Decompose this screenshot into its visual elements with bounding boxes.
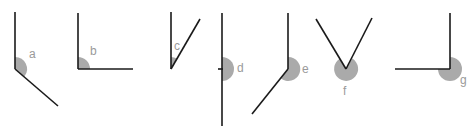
- angle-b-label: b: [90, 44, 97, 58]
- angle-f: f: [316, 18, 372, 98]
- angles-diagram: a b c d e f g: [0, 0, 475, 131]
- angle-f-sector: [334, 59, 358, 81]
- angle-f-arm-2: [346, 18, 372, 69]
- angle-a: a: [15, 12, 58, 106]
- angle-a-arm-2: [15, 69, 58, 106]
- angle-d-sector: [222, 57, 234, 81]
- angle-g-label: g: [460, 73, 467, 87]
- angle-d: d: [218, 13, 244, 126]
- angle-b-sector: [78, 57, 90, 69]
- angle-d-label: d: [237, 61, 244, 75]
- angle-e-label: e: [302, 62, 309, 76]
- angle-e-sector: [281, 57, 301, 81]
- angle-c-label: c: [174, 39, 180, 53]
- angle-a-label: a: [29, 47, 36, 61]
- angle-g: g: [395, 13, 467, 87]
- angle-e: e: [252, 13, 309, 114]
- angle-f-arm-1: [316, 19, 346, 69]
- angle-f-label: f: [343, 84, 347, 98]
- angle-c: c: [171, 12, 200, 69]
- angle-g-sector: [438, 69, 462, 81]
- angle-e-arm-2: [252, 69, 288, 114]
- angle-b: b: [78, 13, 133, 69]
- angle-g-sector-upper: [450, 57, 462, 69]
